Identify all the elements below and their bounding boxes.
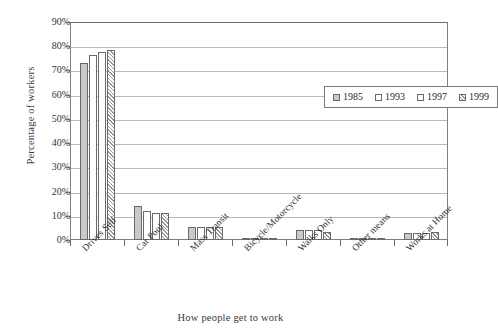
legend-label: 1997 [427,92,447,102]
gridline [71,168,447,169]
y-tick-label: 50% [24,114,70,124]
y-tick-label: 20% [24,187,70,197]
y-tick-label: 90% [24,17,70,27]
gridline [71,144,447,145]
legend-entry: 1999 [459,92,489,102]
y-tick-label: 60% [24,90,70,100]
legend-swatch [459,94,466,101]
y-tick-label: 70% [24,65,70,75]
legend-swatch [375,94,382,101]
legend-entry: 1985 [333,92,363,102]
legend-swatch [417,94,424,101]
legend-entry: 1997 [417,92,447,102]
x-axis-category-labels: Drives SelfCar PoolMass TransitBicycle/M… [70,246,448,306]
y-axis-ticks: 90%80%70%60%50%40%30%20%10%0% [0,22,70,240]
gridline [71,47,447,48]
x-axis-title: How people get to work [0,312,461,323]
y-tick-label: 40% [24,138,70,148]
legend-label: 1993 [385,92,405,102]
y-tick-label: 30% [24,162,70,172]
legend-entry: 1993 [375,92,405,102]
legend-label: 1999 [469,92,489,102]
y-tick-label: 80% [24,41,70,51]
legend-label: 1985 [343,92,363,102]
y-tick-label: 10% [24,211,70,221]
gridline [71,193,447,194]
gridline [71,120,447,121]
gridline [71,71,447,72]
legend-swatch [333,94,340,101]
plot-area: 1985199319971999 [70,22,448,240]
legend: 1985199319971999 [324,86,498,108]
y-tick-label: 0% [24,235,70,245]
